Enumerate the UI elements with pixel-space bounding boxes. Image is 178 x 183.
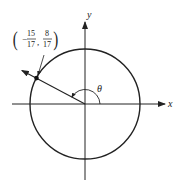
y-numerator: 8 [45, 29, 49, 38]
svg-text:,: , [37, 37, 39, 47]
x-numerator: 15 [27, 29, 35, 38]
x-denominator: 17 [27, 40, 35, 49]
svg-text:): ) [53, 28, 58, 51]
angle-arc [72, 89, 100, 104]
angle-label: θ [97, 83, 102, 94]
svg-text:(: ( [13, 28, 18, 51]
y-axis-label: y [86, 9, 92, 20]
terminal-side-ray [22, 70, 85, 104]
y-denominator: 17 [43, 40, 51, 49]
x-axis-label: x [167, 98, 173, 109]
point-on-circle [34, 76, 39, 81]
point-coordinate-label: ( − 15 17 , 8 17 ) [13, 28, 59, 51]
unit-circle-diagram: x y θ ( − 15 17 , 8 17 ) [0, 0, 178, 183]
